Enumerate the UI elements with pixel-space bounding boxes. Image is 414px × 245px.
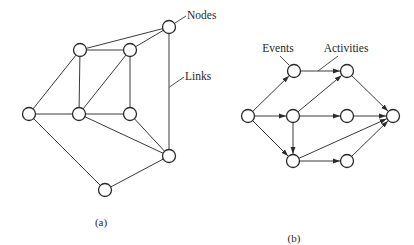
event-circle bbox=[341, 110, 354, 123]
nodes-label: Nodes bbox=[187, 9, 217, 21]
network-diagram-a: Nodes Links (a) bbox=[23, 9, 217, 229]
link-line bbox=[33, 55, 76, 109]
activity-arrow bbox=[299, 119, 387, 158]
event-circle bbox=[341, 155, 354, 168]
figure-canvas: Nodes Links (a) Events Activities (b) bbox=[0, 0, 414, 245]
node-circle bbox=[163, 21, 176, 34]
link-line bbox=[83, 55, 126, 109]
caption-b: (b) bbox=[288, 232, 301, 245]
event-circle bbox=[288, 65, 301, 78]
event-circle bbox=[287, 155, 300, 168]
activities-label: Activities bbox=[324, 42, 369, 54]
link-line bbox=[136, 30, 164, 46]
links-leader-line bbox=[170, 77, 185, 87]
nodes-leader-line bbox=[175, 16, 186, 23]
event-circle bbox=[287, 110, 300, 123]
links-group bbox=[33, 29, 169, 187]
event-circle bbox=[341, 65, 354, 78]
activity-arrow bbox=[253, 121, 288, 156]
node-circle bbox=[74, 44, 87, 57]
events-label: Events bbox=[262, 42, 294, 54]
link-line bbox=[111, 159, 164, 187]
activity-arrow bbox=[253, 76, 289, 112]
diagram-svg: Nodes Links (a) Events Activities (b) bbox=[0, 0, 414, 245]
node-circle bbox=[163, 150, 176, 163]
activity-arrow bbox=[352, 76, 388, 112]
link-line bbox=[85, 117, 163, 154]
caption-a: (a) bbox=[95, 216, 108, 229]
activity-arrow bbox=[298, 75, 342, 111]
node-circle bbox=[99, 184, 112, 197]
network-diagram-b: Events Activities (b) bbox=[242, 42, 400, 245]
activities-group bbox=[253, 71, 388, 161]
event-circle bbox=[242, 110, 255, 123]
node-circle bbox=[23, 108, 36, 121]
link-line bbox=[79, 56, 80, 107]
links-label: Links bbox=[185, 70, 212, 82]
link-line bbox=[86, 29, 162, 49]
nodes-group bbox=[23, 21, 176, 197]
node-circle bbox=[124, 44, 137, 57]
node-circle bbox=[73, 108, 86, 121]
events-leader-line bbox=[280, 56, 289, 65]
event-circle bbox=[387, 110, 400, 123]
node-circle bbox=[124, 108, 137, 121]
link-line bbox=[34, 119, 101, 186]
activities-leader-line bbox=[318, 56, 338, 71]
